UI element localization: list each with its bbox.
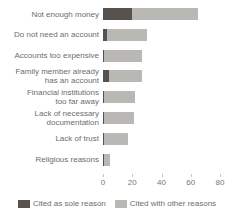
bar-segment-others [104, 91, 135, 103]
bar-track [103, 8, 234, 20]
bar-segment-others [104, 133, 127, 145]
bar-track [103, 70, 234, 82]
axis-tick-label: 60 [186, 178, 195, 187]
bar-segment-others [107, 29, 146, 41]
bar-track [103, 50, 234, 62]
chart-row: Accounts too expensive [0, 50, 234, 62]
category-label: Lack of trust [0, 134, 103, 143]
category-label: Lack of necessarydocumentation [0, 109, 103, 127]
bar-track [103, 29, 234, 41]
category-label: Family member alreadyhas an account [0, 67, 103, 85]
axis-tick-label: 0 [101, 178, 105, 187]
bar-track [103, 91, 234, 103]
axis-tick-mark [132, 174, 133, 177]
legend-item-sole: Cited as sole reason [18, 199, 106, 208]
chart-legend: Cited as sole reason Cited with other re… [0, 199, 234, 208]
legend-label-sole: Cited as sole reason [33, 199, 106, 208]
chart-row: Financial institutionstoo far away [0, 91, 234, 103]
chart-row: Not enough money [0, 8, 234, 20]
axis-tick-label: 80 [216, 178, 225, 187]
bar-segment-others [104, 112, 133, 124]
chart-row: Lack of necessarydocumentation [0, 112, 234, 124]
bar-track [103, 154, 234, 166]
legend-swatch-others [115, 200, 127, 208]
axis-tick-mark [103, 174, 104, 177]
bar-track [103, 133, 234, 145]
chart-rows: Not enough moneyDo not need an accountAc… [0, 8, 234, 166]
chart-row: Religious reasons [0, 154, 234, 166]
chart-screenshot: Not enough moneyDo not need an accountAc… [0, 0, 234, 215]
chart-row: Lack of trust [0, 133, 234, 145]
bar-chart: Not enough moneyDo not need an accountAc… [0, 8, 234, 190]
category-label: Financial institutionstoo far away [0, 88, 103, 106]
bar-segment-others [109, 70, 143, 82]
category-label: Religious reasons [0, 155, 103, 164]
bar-segment-sole [103, 8, 132, 20]
legend-item-others: Cited with other reasons [115, 199, 216, 208]
category-label: Do not need an account [0, 30, 103, 39]
bar-track [103, 112, 234, 124]
bar-segment-others [132, 8, 198, 20]
bar-segment-others [104, 154, 110, 166]
category-label: Not enough money [0, 10, 103, 19]
axis-tick-mark [220, 174, 221, 177]
axis-tick-mark [191, 174, 192, 177]
axis-tick-label: 40 [157, 178, 166, 187]
legend-label-others: Cited with other reasons [130, 199, 216, 208]
chart-row: Family member alreadyhas an account [0, 70, 234, 82]
x-axis: 020406080 [103, 174, 234, 190]
axis-tick-label: 20 [128, 178, 137, 187]
legend-swatch-sole [18, 200, 30, 208]
bar-segment-others [104, 50, 142, 62]
axis-tick-mark [162, 174, 163, 177]
chart-row: Do not need an account [0, 29, 234, 41]
category-label: Accounts too expensive [0, 51, 103, 60]
